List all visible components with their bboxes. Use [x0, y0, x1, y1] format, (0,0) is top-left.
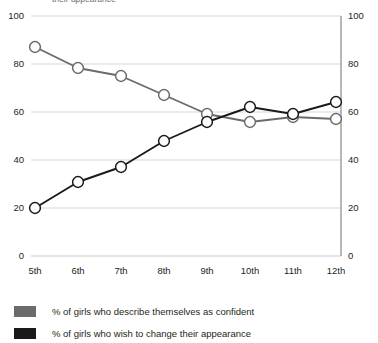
- y2-axis-label-20: 20: [348, 202, 378, 213]
- y-axis-label-0: 0: [0, 250, 24, 261]
- legend-label-appearance: % of girls who wish to change their appe…: [52, 328, 251, 339]
- y-axis-label-40: 40: [0, 154, 24, 165]
- y2-axis-label-0: 0: [348, 250, 378, 261]
- y-axis-label-20: 20: [0, 202, 24, 213]
- x-axis-label-6th: 6th: [58, 265, 98, 276]
- x-axis-label-11th: 11th: [273, 265, 313, 276]
- x-axis-label-10th: 10th: [230, 265, 270, 276]
- legend-item-appearance: % of girls who wish to change their appe…: [14, 322, 364, 343]
- legend-swatch-icon-appearance: [14, 328, 36, 339]
- chart-container: their appearance: [0, 0, 378, 343]
- y-axis-label-80: 80: [0, 58, 24, 69]
- series-confident: [30, 97, 342, 214]
- y-axis-label-100: 100: [0, 10, 24, 21]
- legend-swatch-icon-confident: [14, 306, 36, 317]
- y-axis-label-60: 60: [0, 106, 24, 117]
- gridlines: [31, 16, 341, 256]
- x-axis-label-12th: 12th: [316, 265, 356, 276]
- y2-axis-label-80: 80: [348, 58, 378, 69]
- x-axis-label-8th: 8th: [144, 265, 184, 276]
- x-axis-label-5th: 5th: [15, 265, 55, 276]
- y2-axis-label-60: 60: [348, 106, 378, 117]
- y2-axis-label-100: 100: [348, 10, 378, 21]
- legend-item-confident: % of girls who describe themselves as co…: [14, 300, 364, 322]
- plot-area: [0, 0, 378, 343]
- chart-legend: % of girls who describe themselves as co…: [14, 300, 364, 343]
- x-axis-label-7th: 7th: [101, 265, 141, 276]
- y2-axis-label-40: 40: [348, 154, 378, 165]
- x-axis-label-9th: 9th: [187, 265, 227, 276]
- legend-label-confident: % of girls who describe themselves as co…: [52, 306, 254, 317]
